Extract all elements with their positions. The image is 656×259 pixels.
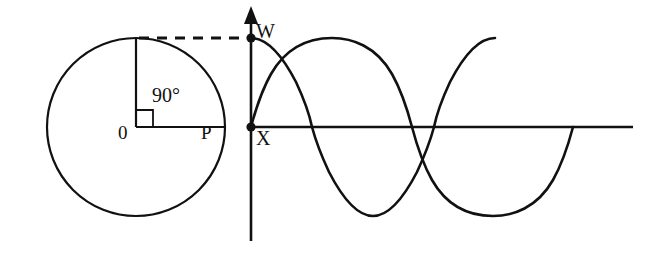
right-angle-marker	[136, 110, 153, 127]
circle-center-label: 0	[118, 122, 128, 144]
point-x-marker	[246, 122, 255, 131]
axis-point-w-label: W	[256, 20, 275, 43]
circle-point-p-label: P	[201, 122, 212, 144]
right-angle-label: 90°	[152, 84, 180, 107]
axis-origin-x-label: X	[256, 127, 270, 150]
figure-canvas	[0, 0, 656, 259]
trigonometry-circle-and-waves-figure: 0 P 90° W X	[0, 0, 656, 259]
point-w-marker	[246, 33, 255, 42]
